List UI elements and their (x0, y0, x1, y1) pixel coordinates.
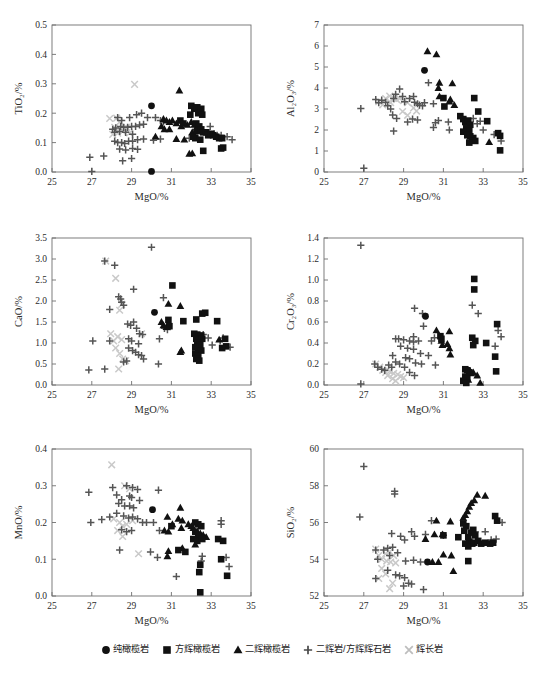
svg-text:3.0: 3.0 (35, 254, 47, 264)
legend-item-3: 二辉橄榄岩 (233, 645, 291, 654)
svg-text:1.0: 1.0 (307, 275, 319, 285)
svg-text:1.0: 1.0 (35, 338, 47, 348)
svg-text:0.4: 0.4 (35, 444, 47, 454)
svg-text:29: 29 (399, 177, 409, 187)
legend-item-4: 二辉岩/方辉辉石岩 (303, 645, 390, 654)
legend-label: 方辉橄榄岩 (175, 645, 220, 654)
legend-label: 二辉岩/方辉辉石岩 (316, 645, 391, 654)
legend-item-1: 纯橄榄岩 (101, 645, 150, 654)
svg-text:33: 33 (478, 177, 488, 187)
svg-text:1.2: 1.2 (307, 254, 319, 264)
svg-text:25: 25 (319, 390, 329, 400)
legend-item-5: 辉长岩 (404, 645, 444, 654)
svg-text:35: 35 (246, 390, 256, 400)
panel-tio2: 2527293133350.00.10.20.30.40.5MgO/%TiO₂/… (0, 0, 272, 212)
svg-text:2: 2 (314, 125, 319, 135)
svg-text:0.5: 0.5 (35, 359, 47, 369)
svg-text:27: 27 (359, 601, 369, 611)
svg-text:4: 4 (314, 83, 319, 93)
svg-text:0.4: 0.4 (35, 50, 47, 60)
svg-text:0.3: 0.3 (35, 79, 47, 89)
cross-marker-icon (404, 645, 413, 654)
panel-cao: 2527293133350.00.51.01.52.02.53.03.5MgO/… (0, 213, 272, 425)
svg-text:27: 27 (87, 177, 97, 187)
figure-legend: 纯橄榄岩方辉橄榄岩二辉橄榄岩二辉岩/方辉辉石岩辉长岩 (0, 640, 544, 660)
svg-text:31: 31 (439, 601, 449, 611)
svg-text:0.2: 0.2 (307, 359, 319, 369)
plus-marker-icon (303, 645, 312, 654)
svg-text:31: 31 (167, 177, 177, 187)
panel-cr2o3: 2527293133350.00.20.40.60.81.01.21.4MgO/… (272, 213, 544, 425)
svg-text:54: 54 (310, 555, 320, 565)
svg-text:35: 35 (246, 177, 256, 187)
figure-root: 2527293133350.00.10.20.30.40.5MgO/%TiO₂/… (0, 0, 544, 676)
svg-text:TiO₂/%: TiO₂/% (13, 82, 24, 114)
svg-text:56: 56 (310, 518, 320, 528)
svg-text:31: 31 (439, 390, 449, 400)
svg-text:33: 33 (206, 601, 216, 611)
svg-text:2.5: 2.5 (35, 275, 47, 285)
svg-text:25: 25 (47, 177, 57, 187)
svg-text:33: 33 (206, 390, 216, 400)
svg-text:1.5: 1.5 (35, 317, 47, 327)
svg-text:MgO/%: MgO/% (135, 191, 169, 202)
svg-text:29: 29 (127, 390, 137, 400)
svg-text:Cr₂O₃/%: Cr₂O₃/% (285, 293, 296, 330)
legend-item-2: 方辉橄榄岩 (162, 645, 220, 654)
svg-text:7: 7 (314, 20, 319, 30)
svg-text:52: 52 (310, 591, 320, 601)
triangle-marker-icon (233, 645, 242, 654)
svg-text:31: 31 (167, 601, 177, 611)
panel-al2o3: 25272931333501234567MgO/%Al₂O₃/% (272, 0, 544, 212)
svg-text:0.3: 0.3 (35, 481, 47, 491)
svg-text:0.4: 0.4 (307, 338, 319, 348)
svg-text:MgO/%: MgO/% (407, 404, 441, 415)
svg-text:Al₂O₃/%: Al₂O₃/% (285, 80, 296, 117)
svg-text:0.1: 0.1 (35, 138, 47, 148)
square-marker-icon (162, 645, 171, 654)
svg-text:3: 3 (314, 104, 319, 114)
svg-text:29: 29 (127, 177, 137, 187)
svg-text:3.5: 3.5 (35, 233, 47, 243)
svg-text:0.0: 0.0 (35, 167, 47, 177)
svg-text:25: 25 (47, 601, 57, 611)
svg-text:31: 31 (167, 390, 177, 400)
svg-text:27: 27 (359, 177, 369, 187)
svg-text:29: 29 (399, 390, 409, 400)
svg-text:CaO/%: CaO/% (13, 296, 24, 327)
svg-text:0.2: 0.2 (35, 109, 47, 119)
svg-text:0.0: 0.0 (35, 380, 47, 390)
svg-text:29: 29 (127, 601, 137, 611)
circle-marker-icon (101, 645, 110, 654)
legend-label: 纯橄榄岩 (113, 645, 149, 654)
svg-text:MgO/%: MgO/% (407, 615, 441, 626)
svg-text:25: 25 (47, 390, 57, 400)
svg-text:MgO/%: MgO/% (407, 191, 441, 202)
svg-text:58: 58 (310, 481, 320, 491)
svg-text:27: 27 (359, 390, 369, 400)
svg-text:35: 35 (518, 177, 528, 187)
svg-text:0: 0 (314, 167, 319, 177)
svg-text:0.0: 0.0 (35, 591, 47, 601)
svg-text:MgO/%: MgO/% (135, 615, 169, 626)
svg-text:25: 25 (319, 601, 329, 611)
legend-label: 二辉橄榄岩 (245, 645, 290, 654)
svg-text:5: 5 (314, 62, 319, 72)
svg-text:0.6: 0.6 (307, 317, 319, 327)
svg-text:35: 35 (518, 390, 528, 400)
svg-text:35: 35 (246, 601, 256, 611)
svg-text:0.8: 0.8 (307, 296, 319, 306)
svg-text:0.2: 0.2 (35, 518, 47, 528)
svg-text:31: 31 (439, 177, 449, 187)
svg-text:6: 6 (314, 41, 319, 51)
legend-label: 辉长岩 (416, 645, 443, 654)
svg-text:25: 25 (319, 177, 329, 187)
svg-text:35: 35 (518, 601, 528, 611)
panel-sio2: 2527293133355254565860MgO/%SiO₂/% (272, 424, 544, 636)
svg-text:29: 29 (399, 601, 409, 611)
svg-text:33: 33 (206, 177, 216, 187)
svg-text:27: 27 (87, 390, 97, 400)
svg-text:27: 27 (87, 601, 97, 611)
svg-text:1.4: 1.4 (307, 233, 319, 243)
svg-text:0.0: 0.0 (307, 380, 319, 390)
